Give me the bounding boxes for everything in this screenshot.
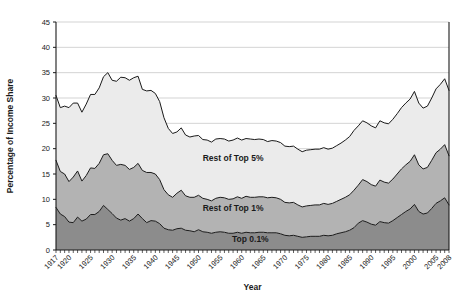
x-tick-label: 1920 <box>55 253 73 271</box>
series-label: Rest of Top 5% <box>203 153 264 163</box>
y-tick-label: 25 <box>42 119 50 128</box>
x-tick-label: 1955 <box>206 253 224 271</box>
x-tick-label: 1990 <box>358 253 376 271</box>
x-tick-label: 1975 <box>293 253 311 271</box>
x-tick-label: 2008 <box>435 253 453 271</box>
y-tick-label: 35 <box>42 68 50 77</box>
x-tick-label: 1995 <box>379 253 397 271</box>
y-tick-label: 20 <box>42 144 50 153</box>
x-tick-label: 1985 <box>336 253 354 271</box>
x-tick-label: 1960 <box>228 253 246 271</box>
x-tick-label: 1925 <box>77 253 95 271</box>
x-axis-tick-labels: 1917192019251930193519401945195019551960… <box>42 253 453 271</box>
x-tick-label: 1935 <box>120 253 138 271</box>
x-tick-label: 2000 <box>401 253 419 271</box>
series-label: Rest of Top 1% <box>203 203 264 213</box>
x-tick-label: 1980 <box>314 253 332 271</box>
y-axis-title: Percentage of Income Share <box>5 79 15 194</box>
y-tick-label: 5 <box>46 220 50 229</box>
y-tick-label: 0 <box>46 246 50 255</box>
income-share-chart: Rest of Top 5%Rest of Top 1%Top 0.1%0510… <box>0 0 462 295</box>
chart-canvas: Rest of Top 5%Rest of Top 1%Top 0.1%0510… <box>0 0 462 295</box>
series-label: Top 0.1% <box>232 234 269 244</box>
x-tick-label: 1970 <box>271 253 289 271</box>
x-tick-label: 1945 <box>163 253 181 271</box>
y-tick-label: 30 <box>42 94 50 103</box>
x-axis-title: Year <box>244 282 263 292</box>
y-tick-label: 15 <box>42 170 50 179</box>
y-tick-label: 10 <box>42 195 50 204</box>
x-tick-label: 1930 <box>98 253 116 271</box>
x-tick-label: 1950 <box>185 253 203 271</box>
y-tick-label: 40 <box>42 43 50 52</box>
x-tick-label: 1940 <box>142 253 160 271</box>
y-axis-ticks: 051015202530354045 <box>42 18 56 255</box>
y-tick-label: 45 <box>42 18 50 27</box>
x-tick-label: 1965 <box>250 253 268 271</box>
